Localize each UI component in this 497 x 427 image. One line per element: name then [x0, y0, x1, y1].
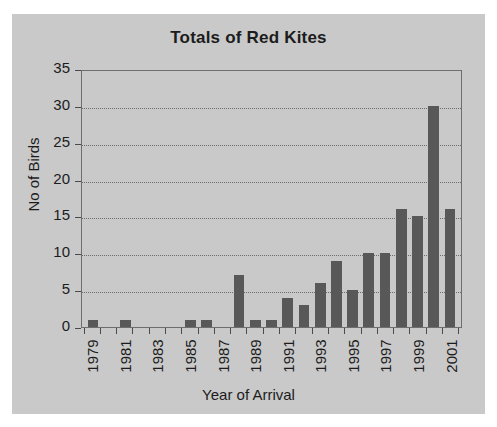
- bar[interactable]: [282, 298, 293, 327]
- x-tick-mark: [149, 328, 150, 334]
- bar[interactable]: [363, 253, 374, 327]
- bar[interactable]: [315, 283, 326, 327]
- x-label-slot: 1996: [361, 335, 377, 385]
- bar[interactable]: [266, 320, 277, 327]
- x-tick-slot: [361, 328, 377, 335]
- x-tick-slot: [394, 328, 410, 335]
- bar[interactable]: [201, 320, 212, 327]
- y-axis-ticks: 05101520253035: [12, 70, 81, 328]
- bar[interactable]: [347, 290, 358, 327]
- x-tick-slot: [117, 328, 133, 335]
- bar[interactable]: [380, 253, 391, 327]
- x-tick-slot: [247, 328, 263, 335]
- x-label-slot: 1988: [231, 335, 247, 385]
- y-tick-label: 10: [53, 243, 70, 260]
- x-tick-mark: [116, 328, 117, 334]
- bar-slot: [361, 71, 377, 327]
- x-tick-slot: [410, 328, 426, 335]
- x-label-slot: 1980: [100, 335, 116, 385]
- bar[interactable]: [250, 320, 261, 327]
- bar[interactable]: [88, 320, 99, 327]
- bar[interactable]: [120, 320, 131, 327]
- x-tick-slot: [328, 328, 344, 335]
- x-tick-mark: [458, 328, 459, 334]
- x-label-slot: 1990: [263, 335, 279, 385]
- x-tick-mark: [84, 328, 85, 334]
- x-label-slot: 1994: [328, 335, 344, 385]
- bar[interactable]: [412, 216, 423, 327]
- x-tick-mark: [426, 328, 427, 334]
- x-tick-mark: [377, 328, 378, 334]
- x-label-slot: 1991: [280, 335, 296, 385]
- bar[interactable]: [185, 320, 196, 327]
- x-label-slot: 1999: [410, 335, 426, 385]
- x-tick-mark: [100, 328, 101, 334]
- x-tick-label: 1989: [247, 339, 264, 372]
- x-tick-slot: [280, 328, 296, 335]
- bar-slot: [199, 71, 215, 327]
- x-tick-label: 1979: [84, 339, 101, 372]
- x-label-slot: 1986: [198, 335, 214, 385]
- bar-slot: [166, 71, 182, 327]
- x-label-slot: 1987: [214, 335, 230, 385]
- x-label-slot: 1985: [182, 335, 198, 385]
- bar-slot: [345, 71, 361, 327]
- x-tick-mark: [328, 328, 329, 334]
- x-tick-label: 1995: [344, 339, 361, 372]
- x-tick-slot: [296, 328, 312, 335]
- x-tick-label: 1985: [181, 339, 198, 372]
- x-axis-tick-labels: 1979198019811982198319841985198619871988…: [81, 335, 462, 385]
- plot-area: [81, 70, 462, 328]
- bar[interactable]: [428, 106, 439, 327]
- x-label-slot: 1989: [247, 335, 263, 385]
- bar-slot: [117, 71, 133, 327]
- x-tick-slot: [214, 328, 230, 335]
- bar-slot: [101, 71, 117, 327]
- bar[interactable]: [331, 261, 342, 327]
- x-tick-slot: [133, 328, 149, 335]
- x-label-slot: 1983: [149, 335, 165, 385]
- x-label-slot: 1997: [377, 335, 393, 385]
- bar[interactable]: [299, 305, 310, 327]
- x-tick-slot: [443, 328, 459, 335]
- bar[interactable]: [396, 209, 407, 327]
- x-tick-slot: [149, 328, 165, 335]
- bar-slot: [409, 71, 425, 327]
- y-tick-label: 5: [62, 280, 70, 297]
- bar-slot: [328, 71, 344, 327]
- x-tick-mark: [230, 328, 231, 334]
- x-tick-slot: [263, 328, 279, 335]
- x-tick-slot: [312, 328, 328, 335]
- x-label-slot: 1992: [296, 335, 312, 385]
- x-tick-slot: [426, 328, 442, 335]
- bar[interactable]: [234, 275, 245, 327]
- x-tick-mark: [393, 328, 394, 334]
- x-tick-mark: [165, 328, 166, 334]
- x-axis-ticks: [81, 328, 462, 335]
- bar-slot: [296, 71, 312, 327]
- x-tick-mark: [344, 328, 345, 334]
- x-label-slot: 2000: [426, 335, 442, 385]
- bar-slot: [442, 71, 458, 327]
- y-tick-label: 25: [53, 133, 70, 150]
- bar-slot: [393, 71, 409, 327]
- x-tick-slot: [84, 328, 100, 335]
- bar-slot: [134, 71, 150, 327]
- bar[interactable]: [445, 209, 456, 327]
- x-tick-slot: [182, 328, 198, 335]
- bar-slot: [150, 71, 166, 327]
- x-label-slot: 1993: [312, 335, 328, 385]
- bars-layer: [82, 71, 461, 327]
- bar-slot: [247, 71, 263, 327]
- bar-slot: [182, 71, 198, 327]
- x-tick-mark: [361, 328, 362, 334]
- x-tick-label: 1983: [149, 339, 166, 372]
- x-tick-mark: [263, 328, 264, 334]
- x-tick-mark: [246, 328, 247, 334]
- x-tick-slot: [100, 328, 116, 335]
- y-tick-label: 20: [53, 170, 70, 187]
- bar-slot: [231, 71, 247, 327]
- x-tick-mark: [279, 328, 280, 334]
- x-tick-label: 1987: [214, 339, 231, 372]
- x-tick-slot: [198, 328, 214, 335]
